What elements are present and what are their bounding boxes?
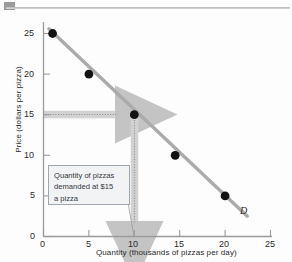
x-tick-label-5: 5: [86, 239, 91, 249]
y-axis-title: Price (dollars per pizza): [14, 55, 23, 165]
x-axis-ticks: [44, 230, 271, 236]
y-tick-label-15: 15: [24, 109, 34, 119]
x-tick-label-25: 25: [265, 239, 275, 249]
data-point: [48, 29, 57, 38]
callout-line-2: demanded at $15: [54, 181, 129, 192]
data-point: [171, 151, 180, 160]
callout-line-1: Quantity of pizzas: [54, 170, 129, 181]
x-tick-label-0: 0: [40, 239, 45, 249]
y-tick-label-0: 0: [30, 231, 35, 241]
y-tick-label-20: 20: [24, 69, 34, 79]
data-point: [130, 110, 139, 119]
data-point: [85, 70, 94, 79]
demand-curve-label: D: [240, 205, 247, 216]
callout-box: Quantity of pizzas demanded at $15 a piz…: [48, 165, 130, 205]
y-tick-label-10: 10: [24, 150, 34, 160]
x-axis-title: Quantity (thousands of pizzas per day): [96, 248, 237, 257]
demand-curve-plot: [0, 0, 292, 262]
callout-line-3: a pizza: [54, 193, 129, 204]
y-tick-label-5: 5: [30, 190, 35, 200]
y-tick-label-25: 25: [24, 28, 34, 38]
data-point: [221, 192, 230, 201]
figure-container: 0 5 10 15 20 25 0 5 10 15 20 25 Price (d…: [0, 0, 292, 262]
y-axis-ticks: [44, 34, 50, 237]
